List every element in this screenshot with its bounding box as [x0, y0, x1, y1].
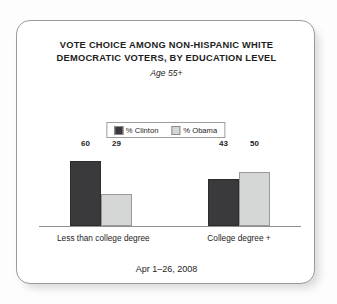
bar-clinton-college-degree: [208, 179, 239, 226]
legend-item-clinton: % Clinton: [114, 126, 159, 135]
chart-title-line-1: VOTE CHOICE AMONG NON-HISPANIC WHITE: [17, 39, 315, 52]
bar-clinton-less-than-college: [70, 161, 101, 226]
axis-baseline: [39, 226, 301, 227]
category-axis: Less than college degree College degree …: [39, 233, 301, 247]
bar-group-college-degree: 43 50: [195, 150, 283, 226]
bar-value-clinton-less-than-college: 60: [81, 139, 90, 148]
legend-item-obama: % Obama: [171, 126, 217, 135]
chart-title-line-2: DEMOCRATIC VOTERS, BY EDUCATION LEVEL: [17, 52, 315, 65]
legend-swatch-obama-icon: [171, 126, 180, 135]
legend-swatch-clinton-icon: [114, 126, 123, 135]
bar-group-less-than-college: 60 29: [57, 150, 145, 226]
category-label-less-than-college: Less than college degree: [57, 233, 145, 243]
chart-footer-date: Apr 1–26, 2008: [17, 264, 315, 274]
chart-page: VOTE CHOICE AMONG NON-HISPANIC WHITE DEM…: [0, 0, 337, 304]
chart-subtitle: Age 55+: [17, 68, 315, 79]
bar-wrap-clinton-less-than-college: 60: [70, 150, 101, 226]
bar-value-obama-less-than-college: 29: [112, 139, 121, 148]
bar-obama-college-degree: [239, 172, 270, 226]
bar-wrap-obama-college-degree: 50: [239, 150, 270, 226]
legend-label-obama: % Obama: [183, 126, 217, 135]
category-label-college-degree: College degree +: [195, 233, 283, 243]
chart-card: VOTE CHOICE AMONG NON-HISPANIC WHITE DEM…: [16, 20, 315, 284]
bar-wrap-obama-less-than-college: 29: [101, 150, 132, 226]
plot-area: 60 29 43 50: [39, 151, 301, 227]
bar-wrap-clinton-college-degree: 43: [208, 150, 239, 226]
chart-legend: % Clinton % Obama: [106, 122, 225, 138]
bar-value-clinton-college-degree: 43: [219, 139, 228, 148]
chart-title-block: VOTE CHOICE AMONG NON-HISPANIC WHITE DEM…: [17, 39, 315, 79]
legend-label-clinton: % Clinton: [126, 126, 159, 135]
bar-obama-less-than-college: [101, 194, 132, 225]
bar-value-obama-college-degree: 50: [250, 139, 259, 148]
